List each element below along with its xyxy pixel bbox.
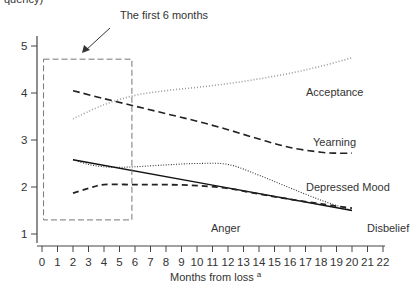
x-tick-label: 19 (330, 256, 343, 268)
x-tick-label: 4 (101, 256, 108, 268)
x-tick-label: 5 (116, 256, 122, 268)
grief-stages-chart: 1234501234567891011121314151617181920212… (0, 0, 417, 299)
series-yearning (73, 91, 352, 154)
x-tick-label: 12 (222, 256, 235, 268)
x-tick-label: 2 (70, 256, 76, 268)
y-tick-label: 1 (21, 228, 27, 240)
x-tick-label: 1 (54, 256, 60, 268)
x-tick-label: 17 (299, 256, 312, 268)
x-tick-label: 18 (315, 256, 328, 268)
y-tick-label: 5 (21, 40, 27, 52)
x-tick-label: 3 (85, 256, 91, 268)
x-tick-label: 21 (361, 256, 374, 268)
x-axis-label: Months from lossa (170, 270, 262, 283)
label-depressed-mood: Depressed Mood (306, 181, 390, 193)
y-tick-label: 2 (21, 181, 27, 193)
label-acceptance: Acceptance (306, 86, 363, 98)
x-tick-label: 22 (377, 256, 390, 268)
x-tick-label: 15 (268, 256, 281, 268)
x-tick-label: 0 (39, 256, 45, 268)
x-tick-label: 10 (191, 256, 204, 268)
x-tick-label: 13 (237, 256, 250, 268)
label-anger: Anger (211, 222, 241, 234)
y-tick-label: 4 (21, 87, 28, 99)
x-axis-label-superscript: a (257, 270, 262, 279)
x-tick-label: 11 (207, 256, 219, 268)
x-tick-label: 16 (284, 256, 297, 268)
top-cropped-text: quency) (4, 0, 43, 5)
arrow-head-icon (82, 45, 90, 53)
label-disbelief: Disbelief (367, 222, 410, 234)
x-tick-label: 8 (163, 256, 169, 268)
annotation-arrow (86, 28, 110, 50)
first-six-months-box (44, 59, 132, 220)
annotation-text: The first 6 months (120, 9, 209, 21)
ticks: 1234501234567891011121314151617181920212… (21, 40, 389, 268)
label-yearning: Yearning (313, 136, 356, 148)
x-tick-label: 20 (346, 256, 359, 268)
x-tick-label: 9 (178, 256, 184, 268)
x-tick-label: 6 (132, 256, 138, 268)
x-tick-label: 7 (147, 256, 153, 268)
y-tick-label: 3 (21, 134, 27, 146)
x-tick-label: 14 (253, 256, 266, 268)
